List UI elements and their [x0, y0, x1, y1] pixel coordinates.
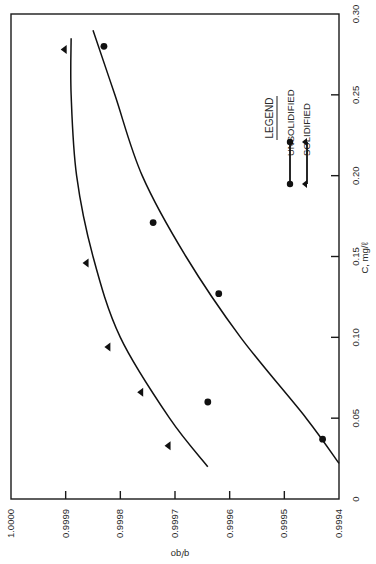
triangle-marker-icon — [83, 258, 89, 267]
x-tick-label: 0.25 — [350, 86, 361, 105]
y-axis-label: q/qo — [171, 549, 190, 560]
chart-canvas: 1.00000.99990.99980.99970.99960.99950.99… — [0, 0, 376, 564]
x-tick-label: 0.30 — [350, 5, 361, 24]
x-tick-label: 0.10 — [350, 328, 361, 347]
legend: LEGEND UNSOLIDIFIED SOLIDIFIED — [264, 89, 312, 188]
y-tick-label: 0.9996 — [224, 509, 235, 538]
fit-curve-solidified — [71, 38, 208, 466]
y-tick-label: 0.9995 — [278, 509, 289, 538]
triangle-marker-icon — [302, 180, 307, 188]
circle-marker-icon — [287, 139, 293, 145]
triangle-marker-icon — [104, 343, 110, 352]
circle-marker-icon — [101, 43, 108, 50]
y-tick-label: 1.0000 — [5, 509, 16, 538]
triangle-marker-icon — [165, 441, 171, 450]
axes: 1.00000.99990.99980.99970.99960.99950.99… — [5, 5, 361, 538]
x-tick-label: 0 — [350, 496, 361, 501]
x-tick-label: 0.20 — [350, 166, 361, 185]
triangle-marker-icon — [61, 45, 67, 54]
y-tick-label: 0.9998 — [114, 509, 125, 538]
circle-marker-icon — [215, 290, 222, 297]
circle-marker-icon — [150, 219, 157, 226]
circle-marker-icon — [319, 436, 326, 443]
y-tick-label: 0.9997 — [169, 509, 180, 538]
circle-marker-icon — [287, 181, 293, 187]
y-tick-label: 0.9999 — [60, 509, 71, 538]
x-axis-label: C, mg/ℓ — [359, 242, 370, 274]
legend-title: LEGEND — [264, 97, 275, 138]
fit-curve-unsolidified — [93, 30, 339, 463]
triangle-marker-icon — [137, 388, 143, 397]
y-tick-label: 0.9994 — [333, 509, 344, 538]
circle-marker-icon — [204, 399, 211, 406]
x-tick-label: 0.05 — [350, 409, 361, 428]
